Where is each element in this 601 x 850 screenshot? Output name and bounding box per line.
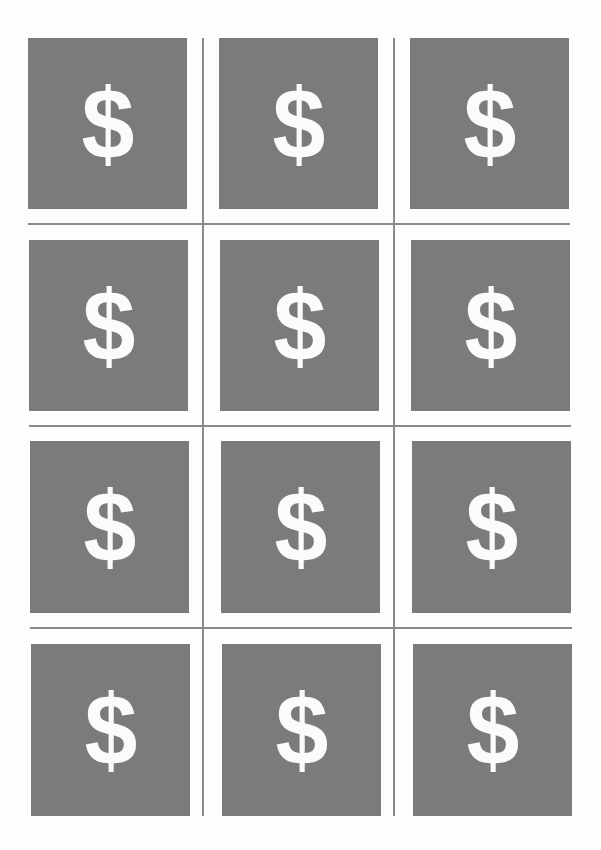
cut-line-horizontal xyxy=(29,425,571,427)
dollar-card: $ xyxy=(221,441,380,613)
dollar-sign-icon: $ xyxy=(272,74,325,174)
cut-line-horizontal xyxy=(30,627,572,629)
dollar-card: $ xyxy=(410,38,569,209)
cut-line-horizontal xyxy=(28,223,570,225)
dollar-card: $ xyxy=(28,38,187,209)
dollar-sign-icon: $ xyxy=(463,74,516,174)
dollar-card: $ xyxy=(220,240,379,411)
cut-line-vertical xyxy=(393,38,395,816)
dollar-sign-icon: $ xyxy=(273,276,326,376)
dollar-sign-icon: $ xyxy=(466,680,519,780)
cut-line-vertical xyxy=(202,38,204,816)
dollar-sign-icon: $ xyxy=(84,680,137,780)
dollar-sign-icon: $ xyxy=(82,276,135,376)
dollar-card: $ xyxy=(30,441,189,613)
dollar-card: $ xyxy=(412,441,571,613)
dollar-card: $ xyxy=(219,38,378,209)
dollar-card: $ xyxy=(31,644,190,816)
dollar-sign-icon: $ xyxy=(465,477,518,577)
dollar-card: $ xyxy=(413,644,572,816)
dollar-card: $ xyxy=(29,240,188,411)
dollar-card: $ xyxy=(411,240,570,411)
dollar-sign-icon: $ xyxy=(83,477,136,577)
dollar-sign-icon: $ xyxy=(81,74,134,174)
dollar-sign-icon: $ xyxy=(464,276,517,376)
dollar-card: $ xyxy=(222,644,381,816)
dollar-sign-icon: $ xyxy=(274,477,327,577)
dollar-sign-icon: $ xyxy=(275,680,328,780)
